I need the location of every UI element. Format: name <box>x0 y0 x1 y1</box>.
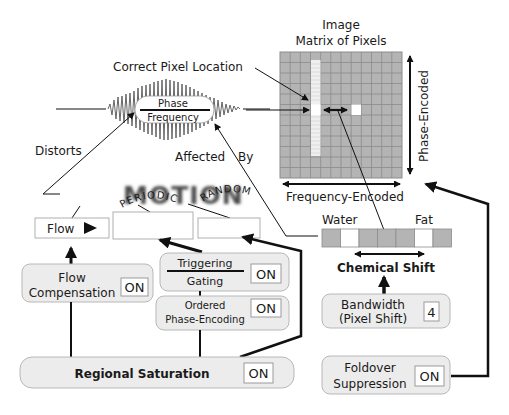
signal-waveform <box>56 79 270 140</box>
flow-compensation-line1: Flow <box>58 271 86 285</box>
ordered-label-line1: Ordered <box>185 300 226 311</box>
distorts-label: Distorts <box>35 144 82 158</box>
bandwidth-line1: Bandwidth <box>341 298 405 312</box>
chemical-shift-label: Chemical Shift <box>337 261 435 275</box>
foldover-line1: Foldover <box>344 361 396 375</box>
correct-pixel <box>311 105 321 116</box>
bandwidth-control[interactable]: Bandwidth (Pixel Shift) 4 <box>322 294 450 328</box>
regional-saturation-value: ON <box>249 366 269 381</box>
ordered-label-line2: Phase-Encoding <box>165 314 245 325</box>
flow-label: Flow <box>47 222 75 236</box>
foldover-to-matrix-arrow <box>426 184 488 376</box>
fat-label: Fat <box>415 213 433 227</box>
ordered-phase-encoding-control[interactable]: Ordered Phase-Encoding ON <box>156 296 289 330</box>
phase-encoded-label: Phase-Encoded <box>417 70 431 162</box>
correct-pixel-location-label: Correct Pixel Location <box>113 60 243 74</box>
foldover-suppression-value: ON <box>420 369 440 384</box>
gating-label: Gating <box>187 275 224 288</box>
water-label: Water <box>322 213 358 227</box>
foldover-line2: Suppression <box>333 377 406 391</box>
regional-saturation-control[interactable]: Regional Saturation ON <box>20 357 294 388</box>
phase-label: Phase <box>158 98 188 109</box>
bandwidth-value: 4 <box>427 305 435 320</box>
matrix-title-line2: Matrix of Pixels <box>296 34 387 48</box>
flow-compensation-control[interactable]: Flow Compensation ON <box>22 264 153 302</box>
trigger-to-periodic-arrow <box>160 240 202 252</box>
shifted-pixel <box>352 105 362 116</box>
frequency-encoded-label: Frequency-Encoded <box>286 190 404 204</box>
flow-compensation-line2: Compensation <box>29 286 116 300</box>
diagram-canvas: Image Matrix of Pixels Phase-Encoded Fre… <box>0 0 509 415</box>
chemical-shift-strip <box>322 229 452 247</box>
image-matrix <box>280 52 402 178</box>
ordered-phase-encoding-value: ON <box>256 301 276 316</box>
triggering-gating-value: ON <box>256 267 276 282</box>
motion-to-flow-line <box>72 206 80 218</box>
frequency-label: Frequency <box>147 112 199 123</box>
by-label: By <box>238 150 253 164</box>
triggering-gating-control[interactable]: Triggering Gating ON <box>160 253 289 291</box>
affected-label: Affected <box>175 150 225 164</box>
flow-box[interactable]: Flow <box>35 218 109 238</box>
flow-compensation-value: ON <box>125 280 145 295</box>
bandwidth-line2: (Pixel Shift) <box>339 312 407 326</box>
triggering-label: Triggering <box>177 257 233 270</box>
foldover-suppression-control[interactable]: Foldover Suppression ON <box>322 356 450 394</box>
regional-saturation-label: Regional Saturation <box>75 367 210 381</box>
matrix-title-line1: Image <box>322 18 360 32</box>
